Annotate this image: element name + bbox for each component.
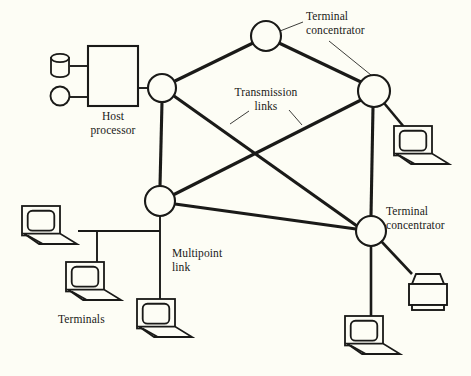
label-terminals: Terminals (58, 313, 105, 327)
transmission-links-group (160, 43, 373, 229)
diagram-page: Terminal concentrator Host processor Tra… (0, 0, 471, 376)
host-gateway-node[interactable] (148, 74, 176, 102)
label-terminal-concentrator-right: Terminal concentrator (386, 205, 445, 232)
link-host-gateway-to-top (175, 43, 253, 81)
host-processor-box (88, 46, 138, 106)
terminal-icon-left-upper[interactable] (22, 206, 77, 244)
label-multipoint-link: Multipoint link (172, 247, 222, 274)
terminal-concentrator-top[interactable] (251, 21, 281, 51)
drop-right-lower-to-printer (381, 241, 412, 274)
printer-icon[interactable] (409, 274, 447, 310)
label-host-processor: Host processor (78, 110, 148, 137)
terminal-concentrator-mid-left[interactable] (145, 186, 175, 216)
terminal-icon-left-lower[interactable] (66, 262, 121, 300)
leader-terminal-concentrator-top (280, 22, 303, 31)
drop-right-upper-to-terminal (384, 103, 404, 127)
label-terminal-concentrator-top: Terminal concentrator (306, 10, 365, 37)
terminal-icon-bottom-right[interactable] (345, 316, 400, 354)
link-right-upper-to-right-lower (371, 107, 373, 216)
label-transmission-links: Transmission links (207, 86, 325, 113)
terminal-icon-top-right[interactable] (394, 126, 449, 164)
link-top-to-right-upper (279, 43, 361, 82)
tape-drive-icon (51, 87, 70, 106)
terminal-icon-bottom-left[interactable] (137, 299, 192, 337)
terminal-concentrator-right-upper[interactable] (358, 75, 390, 107)
link-host-gateway-to-mid-left (160, 102, 162, 186)
disk-drive-icon (51, 54, 69, 77)
network-nodes-group (145, 21, 390, 246)
